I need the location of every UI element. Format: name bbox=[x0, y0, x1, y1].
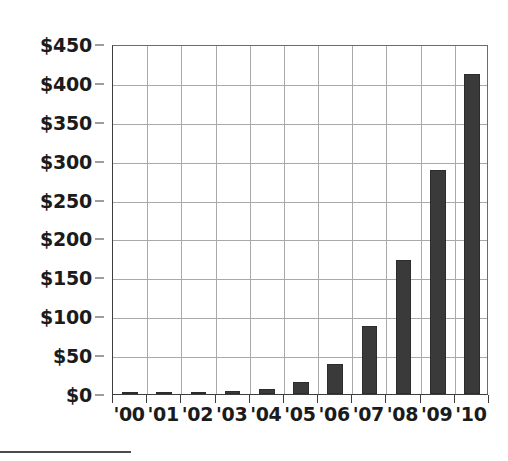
y-tick-label: $200 bbox=[40, 228, 92, 250]
footer-divider bbox=[0, 451, 131, 453]
x-tick-label: '03 bbox=[216, 403, 247, 425]
x-tick-label: '04 bbox=[250, 403, 281, 425]
x-tick-mark bbox=[385, 395, 386, 403]
y-tick-label: $250 bbox=[40, 190, 92, 212]
bar bbox=[430, 170, 446, 394]
x-tick-mark bbox=[249, 395, 250, 403]
y-tick-label: $0 bbox=[66, 384, 92, 406]
x-tick-label: '06 bbox=[318, 403, 349, 425]
y-tick-mark bbox=[95, 122, 104, 123]
y-tick-mark bbox=[95, 239, 104, 240]
x-tick-mark bbox=[112, 395, 113, 403]
y-tick-mark bbox=[95, 83, 104, 84]
x-tick-label: '07 bbox=[353, 403, 384, 425]
bar bbox=[327, 364, 343, 394]
x-tick-mark bbox=[180, 395, 181, 403]
y-tick-mark bbox=[95, 356, 104, 357]
bar bbox=[362, 326, 378, 394]
plot-area bbox=[112, 45, 488, 395]
x-tick-mark bbox=[488, 395, 489, 403]
x-tick-mark bbox=[317, 395, 318, 403]
y-tick-mark bbox=[95, 200, 104, 201]
x-axis: '00'01'02'03'04'05'06'07'08'09'10 bbox=[112, 399, 488, 429]
x-tick-label: '09 bbox=[421, 403, 452, 425]
x-tick-mark bbox=[351, 395, 352, 403]
bar bbox=[259, 389, 275, 394]
y-tick-mark bbox=[95, 278, 104, 279]
bar-chart-figure: $0$50$100$150$200$250$300$350$400$450 '0… bbox=[0, 0, 508, 461]
x-tick-mark bbox=[146, 395, 147, 403]
bar bbox=[293, 382, 309, 394]
y-tick-mark bbox=[95, 45, 104, 46]
x-tick-label: '02 bbox=[182, 403, 213, 425]
bar bbox=[191, 392, 207, 394]
y-tick-label: $50 bbox=[53, 345, 92, 367]
x-tick-label: '00 bbox=[113, 403, 144, 425]
y-tick-mark bbox=[95, 317, 104, 318]
y-tick-label: $400 bbox=[40, 73, 92, 95]
bar bbox=[122, 392, 138, 394]
bar bbox=[156, 392, 172, 394]
x-tick-mark bbox=[420, 395, 421, 403]
x-tick-label: '05 bbox=[284, 403, 315, 425]
y-tick-label: $350 bbox=[40, 112, 92, 134]
x-tick-mark bbox=[215, 395, 216, 403]
y-tick-mark bbox=[95, 161, 104, 162]
bars-layer bbox=[113, 46, 487, 394]
x-tick-mark bbox=[454, 395, 455, 403]
bar bbox=[464, 74, 480, 394]
y-tick-mark bbox=[95, 395, 104, 396]
x-tick-label: '01 bbox=[148, 403, 179, 425]
y-tick-label: $150 bbox=[40, 267, 92, 289]
x-tick-mark bbox=[283, 395, 284, 403]
y-tick-label: $450 bbox=[40, 34, 92, 56]
y-tick-label: $100 bbox=[40, 306, 92, 328]
y-tick-label: $300 bbox=[40, 151, 92, 173]
x-tick-label: '08 bbox=[387, 403, 418, 425]
bar bbox=[396, 260, 412, 394]
x-tick-label: '10 bbox=[455, 403, 486, 425]
bar bbox=[225, 391, 241, 394]
y-axis: $0$50$100$150$200$250$300$350$400$450 bbox=[0, 45, 104, 395]
